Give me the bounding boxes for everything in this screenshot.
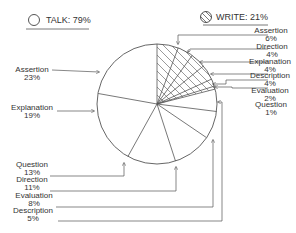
label-write-question: Question1% — [246, 101, 296, 117]
label-talk-direction: Direction11% — [12, 176, 52, 192]
talk-legend-label: TALK: 79% — [46, 15, 91, 25]
talk-legend-icon — [29, 15, 40, 26]
label-talk-assertion: Assertion23% — [10, 66, 54, 82]
label-talk-explanation: Explanation19% — [4, 104, 60, 120]
label-write-assertion: Assertion6% — [246, 27, 296, 43]
write-legend-label: WRITE: 21% — [216, 12, 268, 22]
label-talk-description: Description5% — [6, 207, 60, 223]
